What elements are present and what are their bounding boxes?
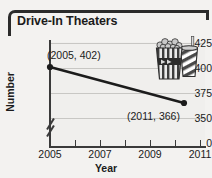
x-tick-2006: [75, 140, 76, 146]
chart-figure: Drive-In Theaters 425 400 375 350 0 2005…: [0, 0, 212, 178]
x-tick-2007: [100, 140, 101, 146]
x-axis-title: Year: [0, 162, 212, 174]
x-tick-label-2009: 2009: [130, 148, 170, 160]
x-tick-2009: [150, 140, 151, 146]
data-point-label-2011: (2011, 366): [127, 110, 180, 122]
x-tick-label-2005: 2005: [30, 148, 70, 160]
y-tick-label-375: 375: [168, 87, 212, 99]
popcorn-and-soda-icon: [152, 36, 202, 84]
x-tick-2005: [50, 140, 51, 146]
x-tick-label-2011: 2011: [180, 148, 212, 160]
frame-corner-tick: [206, 13, 209, 20]
chart-title: Drive-In Theaters: [17, 14, 117, 28]
x-tick-label-2007: 2007: [80, 148, 120, 160]
data-point-label-2005: (2005, 402): [47, 49, 101, 61]
x-tick-2008: [125, 140, 126, 146]
y-axis-break-symbol: [43, 122, 58, 135]
y-axis-title: Number: [4, 57, 16, 127]
